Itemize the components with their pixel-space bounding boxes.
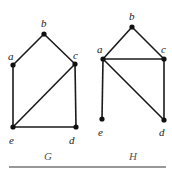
node-h-d [161,117,166,122]
label-h-c: c [161,43,166,55]
label-h-a: a [97,43,103,55]
caption-g: G [44,150,52,162]
node-g-e [10,124,15,129]
label-g-b: b [41,17,47,29]
label-g-d: d [69,134,75,146]
edge-h-a-b [103,27,132,59]
edge-h-b-c [132,27,164,59]
label-g-a: a [8,50,14,62]
graph-h: b a c e d H [97,10,167,162]
label-h-e: e [98,126,103,138]
edge-g-b-c [44,34,75,64]
node-g-d [73,124,78,129]
label-h-d: d [159,126,165,138]
node-h-a [100,56,105,61]
node-g-a [10,62,15,67]
node-h-c [161,56,166,61]
label-g-c: c [73,49,78,61]
graph-comparison-figure: b a c e d G b a c e d H [0,0,172,169]
label-h-b: b [129,10,135,22]
node-h-b [129,24,134,29]
graph-g: b a c e d G [8,17,79,162]
edge-h-a-d [103,59,164,120]
edge-h-a-e [102,59,103,119]
edge-g-c-d [75,64,76,127]
label-g-e: e [9,134,14,146]
node-g-c [72,61,77,66]
caption-h: H [128,150,138,162]
node-g-b [41,31,46,36]
edge-g-a-b [13,34,44,65]
node-h-e [99,116,104,121]
edge-g-c-e [13,64,75,127]
